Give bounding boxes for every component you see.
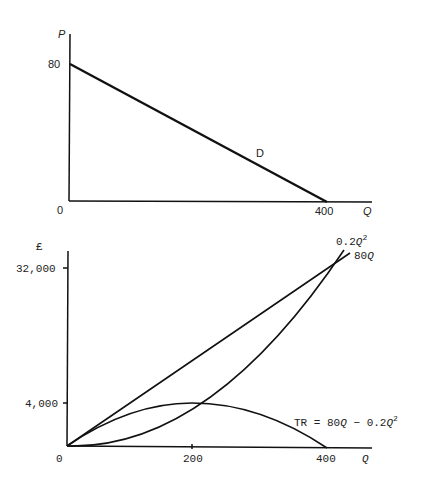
bottom-x-axis-label: Q	[362, 453, 369, 465]
top-x-axis-label: Q	[363, 205, 372, 217]
bottom-x-tick-200: 200	[183, 453, 203, 465]
figure: P 80 0 400 Q D £ 32,000 4,000 0 200 400 …	[0, 0, 431, 488]
top-origin-label: 0	[57, 204, 63, 216]
bottom-y-tick-4000: 4,000	[25, 398, 58, 410]
top-y-axis	[69, 34, 70, 201]
label-80q: 80Q	[354, 250, 374, 262]
bottom-x-tick-400: 400	[316, 453, 336, 465]
bottom-y-axis-label: £	[36, 241, 43, 253]
label-total-revenue: TR = 80Q − 0.2Q2	[294, 414, 398, 429]
bottom-y-tick-32000: 32,000	[16, 263, 56, 275]
top-x-tick-400: 400	[315, 205, 333, 217]
curve-total-revenue	[67, 403, 327, 448]
demand-line	[70, 64, 327, 202]
demand-chart: P 80 0 400 Q D	[48, 28, 372, 217]
top-y-tick-80: 80	[48, 58, 60, 70]
revenue-chart: £ 32,000 4,000 0 200 400 Q 0.2Q2 80Q TR …	[16, 233, 398, 465]
label-0-2q-squared: 0.2Q2	[336, 233, 367, 248]
top-y-axis-label: P	[58, 28, 66, 40]
bottom-y-axis	[67, 251, 68, 446]
demand-curve-label: D	[256, 147, 264, 159]
bottom-origin-label: 0	[56, 453, 63, 465]
